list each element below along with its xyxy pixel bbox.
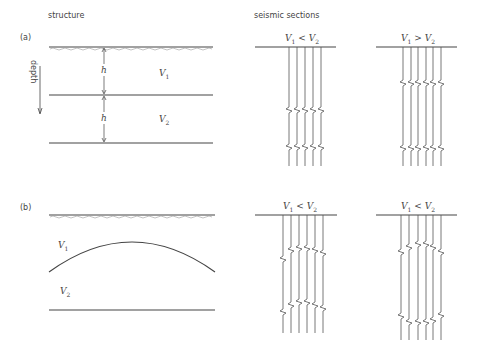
anticline-interface-b — [49, 242, 215, 272]
section-a-right-title: V1 > V2 — [401, 33, 435, 45]
seismic-trace — [430, 47, 436, 166]
seismic-trace — [406, 215, 412, 340]
seismic-trace — [288, 215, 294, 333]
layer-v1-label-a: V1 — [159, 68, 169, 80]
structure-b — [49, 215, 215, 310]
seismic-trace — [438, 215, 444, 340]
seismic-section-a-left — [255, 47, 336, 166]
panel-a-label: (a) — [20, 33, 31, 42]
depth-label: depth — [29, 60, 38, 83]
seismic-trace — [423, 47, 429, 166]
section-b-left-title: V1 < V2 — [283, 201, 317, 213]
layer-v2-label-b: V2 — [60, 286, 70, 298]
seismic-trace — [400, 47, 406, 166]
thickness-label-1: h — [101, 65, 107, 75]
seismic-trace — [294, 47, 300, 166]
section-a-left-title: V1 < V2 — [285, 33, 319, 45]
ground-hatching-a — [50, 48, 212, 50]
seismic-section-b-left — [255, 215, 337, 333]
panel-b-label: (b) — [20, 203, 31, 212]
seismic-trace — [286, 47, 292, 166]
seismic-trace — [310, 47, 316, 166]
section-b-right-title: V1 < V2 — [401, 201, 435, 213]
layer-v1-label-b: V1 — [58, 240, 68, 252]
seismic-section-a-right — [376, 47, 457, 166]
thickness-label-2: h — [101, 113, 107, 123]
seismic-trace — [438, 47, 444, 166]
seismic-section-b-right — [376, 215, 457, 340]
seismic-trace — [415, 215, 421, 340]
layer-v2-label-a: V2 — [159, 114, 169, 126]
seismic-trace — [408, 47, 414, 166]
seismic-trace — [423, 215, 429, 340]
structure-header: structure — [48, 11, 84, 20]
seismic-trace — [415, 47, 421, 166]
seismic-sections-header: seismic sections — [254, 11, 319, 20]
seismic-trace — [318, 47, 324, 166]
seismic-trace — [302, 47, 308, 166]
seismic-trace — [430, 215, 436, 340]
figure-canvas — [0, 0, 478, 349]
seismic-sections — [255, 47, 457, 340]
seismic-trace — [304, 215, 310, 333]
seismic-trace — [280, 215, 286, 333]
seismic-trace — [320, 215, 326, 333]
seismic-trace — [398, 215, 404, 340]
seismic-trace — [312, 215, 318, 333]
seismic-trace — [296, 215, 302, 333]
ground-hatching-b — [50, 216, 212, 218]
structure-a — [38, 47, 213, 143]
